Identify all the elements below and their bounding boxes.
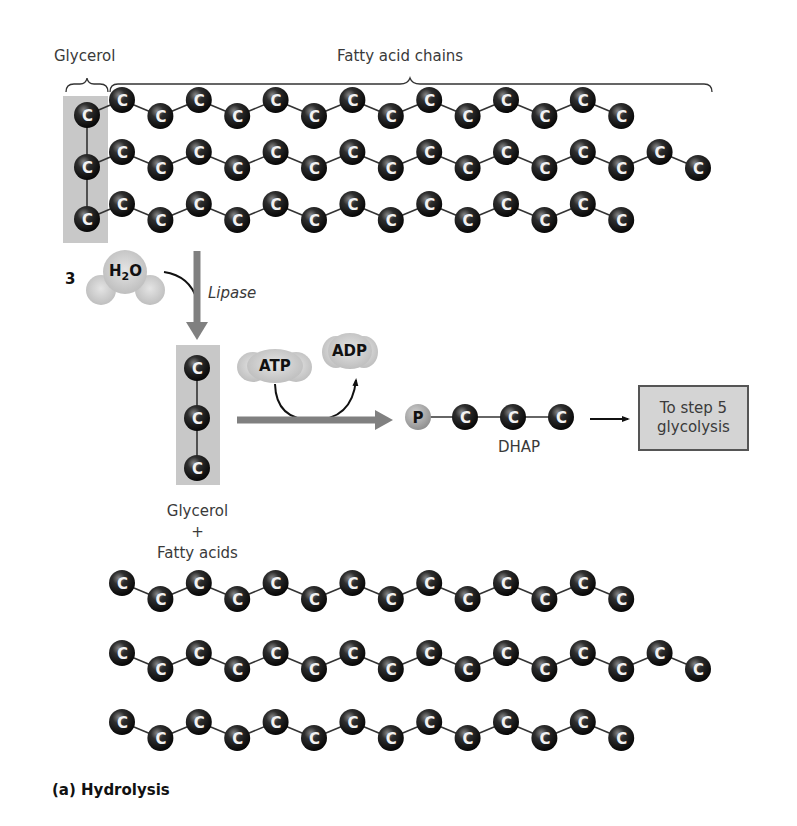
carbon-atom-icon: C bbox=[608, 725, 634, 751]
svg-text:C: C bbox=[578, 92, 589, 110]
phosphate-icon: P bbox=[405, 404, 431, 430]
svg-text:C: C bbox=[616, 160, 627, 178]
svg-text:C: C bbox=[271, 714, 282, 732]
figure-caption: (a) Hydrolysis bbox=[52, 781, 170, 799]
carbon-atom-icon: C bbox=[263, 709, 289, 735]
carbon-atom-icon: C bbox=[339, 191, 365, 217]
svg-text:C: C bbox=[347, 645, 358, 663]
svg-text:C: C bbox=[271, 196, 282, 214]
carbon-atom-icon: C bbox=[378, 103, 404, 129]
adp-label: ADP bbox=[332, 342, 367, 360]
svg-text:C: C bbox=[616, 730, 627, 748]
svg-text:C: C bbox=[194, 714, 205, 732]
svg-text:C: C bbox=[539, 661, 550, 679]
carbon-atom-icon: C bbox=[416, 139, 442, 165]
carbon-atom-icon: C bbox=[186, 139, 212, 165]
water-count: 3 bbox=[65, 270, 75, 288]
carbon-atom-icon: C bbox=[109, 640, 135, 666]
svg-text:C: C bbox=[501, 144, 512, 162]
svg-text:C: C bbox=[309, 108, 320, 126]
svg-text:C: C bbox=[82, 159, 93, 177]
carbon-atom-icon: C bbox=[301, 103, 327, 129]
svg-text:C: C bbox=[616, 108, 627, 126]
svg-text:C: C bbox=[424, 714, 435, 732]
carbon-atom-icon: C bbox=[378, 725, 404, 751]
carbon-atom-icon: C bbox=[685, 155, 711, 181]
svg-text:C: C bbox=[578, 575, 589, 593]
carbon-atom-icon: C bbox=[500, 404, 526, 430]
carbon-atom-icon: C bbox=[224, 656, 250, 682]
carbon-atom-icon: C bbox=[455, 656, 481, 682]
water-formula-o: O bbox=[129, 262, 142, 280]
svg-text:C: C bbox=[347, 196, 358, 214]
svg-text:C: C bbox=[539, 108, 550, 126]
carbon-atom-icon: C bbox=[224, 103, 250, 129]
svg-text:C: C bbox=[117, 575, 128, 593]
carbon-atom-icon: C bbox=[608, 207, 634, 233]
svg-text:C: C bbox=[347, 575, 358, 593]
glycolysis-step-box: To step 5 glycolysis bbox=[638, 385, 749, 451]
products-fatty-acids: Fatty acids bbox=[140, 543, 255, 564]
carbon-atom-icon: C bbox=[531, 103, 557, 129]
svg-text:C: C bbox=[578, 144, 589, 162]
step-box-line1: To step 5 bbox=[660, 399, 727, 418]
svg-text:C: C bbox=[232, 108, 243, 126]
svg-text:C: C bbox=[463, 661, 474, 679]
carbon-atom-icon: C bbox=[147, 725, 173, 751]
svg-text:C: C bbox=[232, 730, 243, 748]
products-plus: + bbox=[140, 522, 255, 543]
svg-text:C: C bbox=[386, 108, 397, 126]
carbon-atom-icon: C bbox=[570, 139, 596, 165]
svg-text:C: C bbox=[155, 160, 166, 178]
svg-text:C: C bbox=[194, 645, 205, 663]
svg-text:C: C bbox=[539, 212, 550, 230]
step-box-line2: glycolysis bbox=[657, 418, 730, 437]
carbon-atom-icon: C bbox=[339, 709, 365, 735]
svg-text:C: C bbox=[539, 730, 550, 748]
carbon-atom-icon: C bbox=[186, 640, 212, 666]
svg-text:C: C bbox=[655, 144, 666, 162]
svg-text:C: C bbox=[616, 661, 627, 679]
carbon-atom-icon: C bbox=[74, 154, 100, 180]
svg-text:C: C bbox=[192, 410, 203, 428]
carbon-atom-icon: C bbox=[186, 709, 212, 735]
svg-text:C: C bbox=[194, 196, 205, 214]
svg-text:C: C bbox=[194, 144, 205, 162]
carbon-atom-icon: C bbox=[263, 191, 289, 217]
carbon-atom-icon: C bbox=[647, 139, 673, 165]
svg-text:C: C bbox=[271, 92, 282, 110]
svg-text:C: C bbox=[117, 144, 128, 162]
svg-text:C: C bbox=[578, 714, 589, 732]
carbon-atom-icon: C bbox=[224, 725, 250, 751]
svg-text:C: C bbox=[192, 460, 203, 478]
svg-text:C: C bbox=[616, 591, 627, 609]
svg-text:C: C bbox=[155, 730, 166, 748]
atp-to-adp-curve-arrow bbox=[275, 380, 356, 420]
carbon-atom-icon: C bbox=[493, 570, 519, 596]
carbon-atom-icon: C bbox=[452, 404, 478, 430]
svg-text:C: C bbox=[556, 409, 567, 427]
carbon-atom-icon: C bbox=[301, 155, 327, 181]
carbon-atom-icon: C bbox=[608, 155, 634, 181]
carbon-atom-icon: C bbox=[186, 191, 212, 217]
carbon-atom-icon: C bbox=[493, 640, 519, 666]
carbon-atom-icon: C bbox=[109, 87, 135, 113]
carbon-atom-icon: C bbox=[109, 570, 135, 596]
carbon-atom-icon: C bbox=[263, 139, 289, 165]
svg-text:C: C bbox=[463, 212, 474, 230]
svg-text:C: C bbox=[271, 144, 282, 162]
svg-text:C: C bbox=[578, 196, 589, 214]
carbon-atom-icon: C bbox=[378, 207, 404, 233]
carbon-atom-icon: C bbox=[74, 206, 100, 232]
carbon-atom-icon: C bbox=[570, 640, 596, 666]
svg-text:C: C bbox=[232, 160, 243, 178]
svg-text:C: C bbox=[309, 661, 320, 679]
svg-text:C: C bbox=[501, 92, 512, 110]
carbon-atom-icon: C bbox=[186, 570, 212, 596]
svg-text:C: C bbox=[655, 645, 666, 663]
svg-text:C: C bbox=[424, 92, 435, 110]
carbon-atom-icon: C bbox=[184, 405, 210, 431]
carbon-atom-icon: C bbox=[224, 586, 250, 612]
carbon-atom-icon: C bbox=[531, 155, 557, 181]
carbon-atom-icon: C bbox=[570, 191, 596, 217]
